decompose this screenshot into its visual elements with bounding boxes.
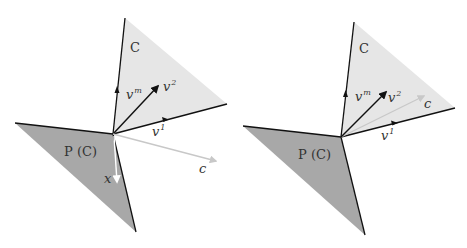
v1-sup: 1 bbox=[389, 127, 394, 136]
diagram-canvas bbox=[0, 0, 467, 248]
label-x-vector: x bbox=[104, 172, 111, 185]
v1-base: v bbox=[381, 128, 388, 143]
label-c-vector: c bbox=[199, 162, 206, 175]
label-v2: v2 bbox=[388, 90, 401, 104]
label-v2: v2 bbox=[163, 79, 176, 93]
v1-base: v bbox=[152, 124, 159, 139]
label-v1: v1 bbox=[381, 128, 394, 142]
v2-sup: 2 bbox=[396, 89, 401, 98]
c-arrow bbox=[113, 134, 216, 161]
diagram-stage: C vm v2 v1 c x P (C) C vm v2 v1 c P (C) bbox=[0, 0, 467, 248]
vm-sup: m bbox=[363, 88, 371, 97]
label-v1: v1 bbox=[152, 124, 165, 138]
left-panel bbox=[15, 18, 227, 232]
v1-sup: 1 bbox=[160, 123, 165, 132]
polar-cone-region bbox=[243, 126, 365, 235]
label-c-vector: c bbox=[424, 97, 431, 110]
vm-base: v bbox=[355, 89, 362, 104]
label-vm: vm bbox=[355, 89, 371, 103]
vm-base: v bbox=[126, 87, 133, 102]
right-panel bbox=[243, 22, 455, 235]
label-cone-c: C bbox=[130, 41, 140, 54]
label-cone-c: C bbox=[359, 42, 369, 55]
label-polar-cone: P (C) bbox=[298, 148, 331, 161]
label-vm: vm bbox=[126, 87, 142, 101]
label-polar-cone: P (C) bbox=[64, 145, 97, 158]
v2-sup: 2 bbox=[171, 78, 176, 87]
vm-sup: m bbox=[134, 86, 142, 95]
v2-base: v bbox=[163, 79, 170, 94]
polar-cone-region bbox=[15, 123, 136, 232]
v2-base: v bbox=[388, 90, 395, 105]
